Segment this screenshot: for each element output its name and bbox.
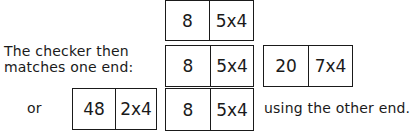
caption-line-2: matches one end: xyxy=(4,59,133,75)
domino-match-right: 20 7x4 xyxy=(263,45,353,87)
domino-top: 8 5x4 xyxy=(165,0,254,41)
domino-top-left: 8 xyxy=(166,1,210,40)
domino-middle-right: 5x4 xyxy=(211,46,253,86)
domino-bottom: 8 5x4 xyxy=(165,88,254,131)
domino-middle: 8 5x4 xyxy=(165,45,254,87)
domino-middle-left: 8 xyxy=(166,46,211,86)
domino-match-left-left: 48 xyxy=(73,89,116,129)
caption-or: or xyxy=(27,100,42,116)
domino-match-left-right: 2x4 xyxy=(116,89,156,129)
domino-top-right: 5x4 xyxy=(210,1,253,40)
domino-bottom-right: 5x4 xyxy=(211,89,253,130)
caption-using: using the other end. xyxy=(264,100,410,116)
domino-match-right-right: 7x4 xyxy=(309,46,352,86)
domino-bottom-left: 8 xyxy=(166,89,211,130)
domino-match-right-left: 20 xyxy=(264,46,309,86)
domino-match-left: 48 2x4 xyxy=(72,88,157,130)
caption-line-1: The checker then xyxy=(4,43,129,59)
